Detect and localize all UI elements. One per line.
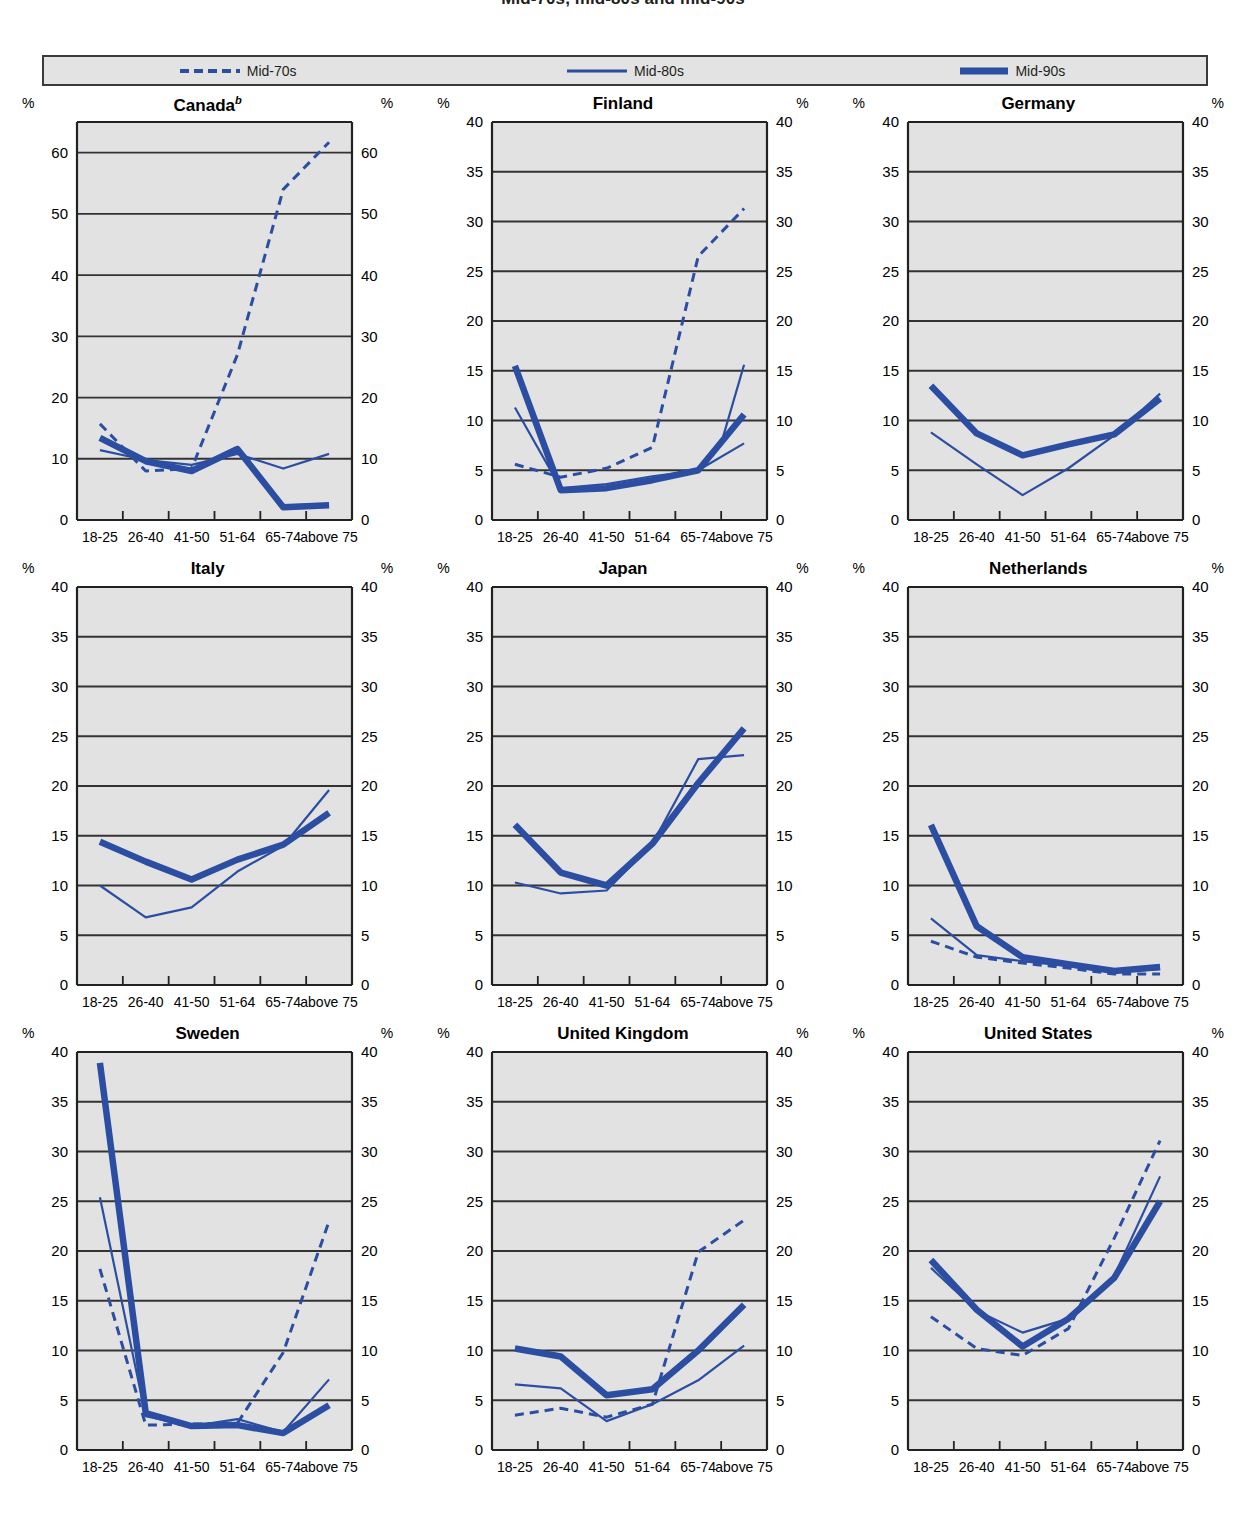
chart-panel-netherlands: Netherlands%%005510101515202025253030353… [831, 557, 1246, 1022]
y-tick-label-right: 10 [776, 412, 793, 429]
x-tick-label: 18-25 [913, 994, 949, 1010]
x-tick-label: 51-64 [635, 529, 671, 545]
y-tick-label-left: 30 [882, 678, 899, 695]
x-tick-label: 26-40 [958, 1459, 994, 1475]
y-tick-label-right: 10 [1192, 412, 1209, 429]
y-tick-label-left: 0 [475, 976, 483, 993]
x-tick-label: 26-40 [958, 994, 994, 1010]
y-tick-label-right: 20 [361, 1243, 378, 1260]
y-tick-label-left: 40 [467, 579, 484, 596]
plot-area: 0055101015152020252530303535404018-2526-… [831, 1022, 1246, 1487]
y-tick-label-left: 30 [51, 328, 68, 345]
x-tick-label: 18-25 [82, 1459, 118, 1475]
y-tick-label-right: 35 [776, 163, 793, 180]
y-tick-label-left: 35 [51, 628, 68, 645]
y-tick-label-right: 20 [1192, 778, 1209, 795]
y-tick-label-left: 15 [882, 1292, 899, 1309]
y-tick-label-right: 25 [1192, 263, 1209, 280]
y-tick-label-left: 10 [882, 412, 899, 429]
y-tick-label-right: 15 [1192, 1292, 1209, 1309]
x-tick-label: 51-64 [220, 1459, 256, 1475]
y-tick-label-right: 30 [361, 1143, 378, 1160]
y-tick-label-right: 15 [776, 1292, 793, 1309]
y-tick-label-left: 35 [882, 628, 899, 645]
y-tick-label-right: 50 [361, 205, 378, 222]
y-tick-label-left: 30 [51, 678, 68, 695]
y-tick-label-right: 40 [1192, 1044, 1209, 1061]
panel-row: Italy%%005510101515202025253030353540401… [0, 557, 1246, 1022]
y-tick-label-left: 35 [467, 628, 484, 645]
x-tick-label: above 75 [300, 529, 358, 545]
y-tick-label-right: 40 [1192, 114, 1209, 131]
plot-area: 0055101015152020252530303535404018-2526-… [415, 1022, 830, 1487]
x-tick-label: above 75 [1131, 1459, 1189, 1475]
x-tick-label: 51-64 [635, 994, 671, 1010]
y-tick-label-right: 35 [1192, 1093, 1209, 1110]
y-tick-label-left: 10 [467, 1342, 484, 1359]
chart-panel-united-states: United States%%0055101015152020252530303… [831, 1022, 1246, 1487]
panel-row: Canadab%%0010102020303040405050606018-25… [0, 92, 1246, 557]
y-tick-label-left: 10 [51, 450, 68, 467]
y-tick-label-right: 35 [1192, 163, 1209, 180]
y-tick-label-left: 30 [467, 1143, 484, 1160]
y-tick-label-right: 40 [776, 579, 793, 596]
y-tick-label-right: 15 [776, 362, 793, 379]
y-tick-label-right: 10 [776, 1342, 793, 1359]
x-tick-label: 18-25 [497, 994, 533, 1010]
x-tick-label: 26-40 [128, 994, 164, 1010]
y-tick-label-right: 0 [1192, 976, 1200, 993]
y-tick-label-left: 20 [882, 1243, 899, 1260]
y-tick-label-left: 30 [467, 678, 484, 695]
x-tick-label: above 75 [300, 1459, 358, 1475]
y-tick-label-right: 5 [1192, 927, 1200, 944]
y-tick-label-right: 35 [361, 628, 378, 645]
legend-item-mid70s: Mid-70s [44, 63, 431, 79]
x-tick-label: above 75 [716, 1459, 774, 1475]
y-tick-label-left: 25 [467, 1193, 484, 1210]
y-tick-label-right: 0 [776, 976, 784, 993]
y-tick-label-left: 20 [51, 389, 68, 406]
y-tick-label-right: 5 [776, 462, 784, 479]
legend-item-mid90s: Mid-90s [819, 63, 1206, 79]
y-tick-label-right: 10 [361, 1342, 378, 1359]
y-tick-label-left: 40 [467, 1044, 484, 1061]
y-tick-label-left: 35 [467, 1093, 484, 1110]
y-tick-label-right: 25 [1192, 1193, 1209, 1210]
chart-page: Mid-70s, mid-80s and mid-90s Mid-70s Mid… [0, 0, 1246, 1517]
y-tick-label-right: 10 [1192, 1342, 1209, 1359]
x-tick-label: 26-40 [128, 1459, 164, 1475]
y-tick-label-left: 0 [890, 1441, 898, 1458]
x-tick-label: 26-40 [958, 529, 994, 545]
y-tick-label-right: 5 [776, 927, 784, 944]
y-tick-label-right: 30 [1192, 213, 1209, 230]
dashed-line-icon [179, 65, 241, 77]
x-tick-label: 65-74 [265, 1459, 301, 1475]
plot-area: 0055101015152020252530303535404018-2526-… [415, 557, 830, 1022]
y-tick-label-right: 10 [361, 877, 378, 894]
y-tick-label-right: 30 [776, 1143, 793, 1160]
y-tick-label-left: 15 [882, 827, 899, 844]
y-tick-label-left: 30 [51, 1143, 68, 1160]
x-tick-label: 18-25 [497, 529, 533, 545]
y-tick-label-left: 15 [467, 362, 484, 379]
y-tick-label-right: 25 [776, 728, 793, 745]
plot-area: 0055101015152020252530303535404018-2526-… [0, 1022, 415, 1487]
chart-panel-sweden: Sweden%%00551010151520202525303035354040… [0, 1022, 415, 1487]
chart-panel-finland: Finland%%0055101015152020252530303535404… [415, 92, 830, 557]
y-tick-label-right: 5 [361, 927, 369, 944]
y-tick-label-right: 5 [1192, 462, 1200, 479]
y-tick-label-left: 5 [60, 927, 68, 944]
y-tick-label-left: 20 [51, 1243, 68, 1260]
plot-area: 0010102020303040405050606018-2526-4041-5… [0, 92, 415, 557]
x-tick-label: 51-64 [1050, 529, 1086, 545]
chart-panel-italy: Italy%%005510101515202025253030353540401… [0, 557, 415, 1022]
y-tick-label-right: 25 [776, 1193, 793, 1210]
y-tick-label-right: 15 [776, 827, 793, 844]
x-tick-label: 41-50 [174, 994, 210, 1010]
x-tick-label: 41-50 [174, 1459, 210, 1475]
y-tick-label-left: 40 [51, 579, 68, 596]
chart-panel-germany: Germany%%0055101015152020252530303535404… [831, 92, 1246, 557]
x-tick-label: 65-74 [681, 994, 717, 1010]
y-tick-label-left: 30 [882, 1143, 899, 1160]
y-tick-label-right: 20 [361, 778, 378, 795]
